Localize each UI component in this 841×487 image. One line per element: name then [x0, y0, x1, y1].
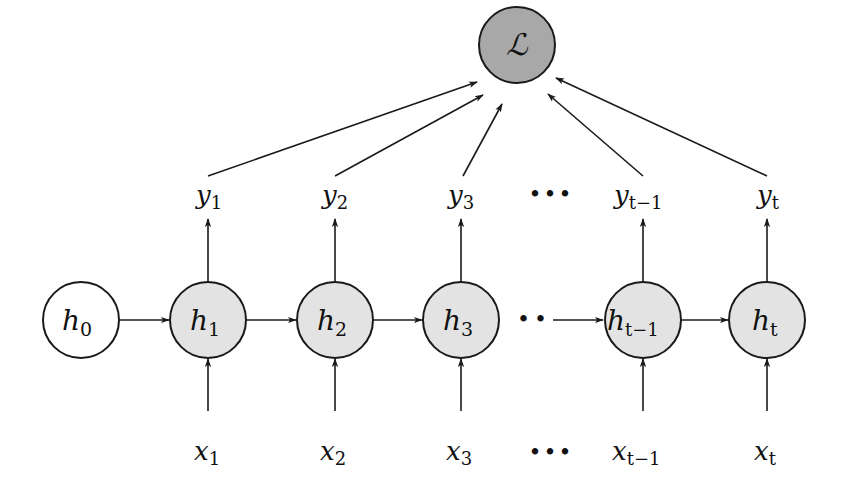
hidden-node-ht: ht	[729, 282, 805, 358]
input-x1: x1	[194, 436, 220, 469]
output-y3: y3	[447, 180, 474, 213]
input-x2: x2	[320, 436, 346, 469]
loss-node: ℒ	[479, 7, 555, 83]
output-labels: y1 y2 y3 ••• yt−1 yt	[195, 180, 780, 213]
hidden-node-h3: h3	[423, 282, 499, 358]
edge-y1-to-loss	[208, 82, 477, 176]
output-to-loss-edges	[208, 78, 767, 176]
edge-yt1-to-loss	[548, 94, 643, 176]
input-xt: xt	[754, 436, 777, 469]
edge-y2-to-loss	[335, 95, 483, 176]
edge-y3-to-loss	[463, 104, 502, 176]
hidden-to-output-edges	[208, 219, 767, 282]
hidden-ellipsis: ••	[517, 307, 551, 332]
output-y1: y1	[195, 180, 222, 213]
hidden-node-h1: h1	[170, 282, 246, 358]
input-ellipsis: •••	[529, 440, 574, 465]
input-x3: x3	[446, 436, 472, 469]
output-yt: yt	[756, 180, 780, 213]
edge-yt-to-loss	[556, 78, 767, 176]
loss-label: ℒ	[506, 27, 529, 62]
output-y2: y2	[321, 180, 348, 213]
output-yt-minus-1: yt−1	[613, 180, 662, 213]
output-ellipsis: •••	[529, 182, 574, 207]
hidden-node-ht-minus-1: ht−1	[605, 282, 681, 358]
rnn-diagram: ℒ y1 y2 y3 ••• yt−1 yt •• h0 h1 h2	[0, 0, 841, 487]
input-xt-minus-1: xt−1	[612, 436, 660, 469]
initial-state-node: h0	[43, 282, 119, 358]
input-to-hidden-edges	[208, 359, 767, 411]
hidden-node-h2: h2	[297, 282, 373, 358]
input-labels: x1 x2 x3 ••• xt−1 xt	[194, 436, 777, 469]
